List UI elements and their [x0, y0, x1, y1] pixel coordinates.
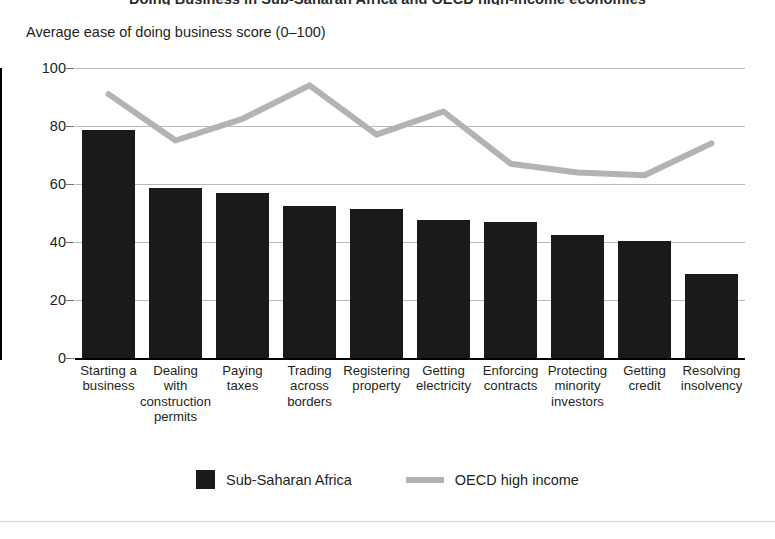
- footer-divider: [0, 521, 775, 522]
- legend-square-swatch-icon: [196, 470, 215, 489]
- y-tick-mark-40: [66, 242, 74, 243]
- legend-label-sub-saharan-africa: Sub-Saharan Africa: [226, 472, 352, 488]
- y-tick-mark-80: [66, 126, 74, 127]
- y-axis-caption: Average ease of doing business score (0–…: [26, 24, 326, 40]
- plot-area: [75, 68, 745, 358]
- chart-title: Doing Business in Sub-Saharan Africa and…: [0, 0, 775, 5]
- y-axis-line: [0, 68, 2, 360]
- y-tick-label-20: 20: [20, 292, 66, 308]
- legend-item-oecd-high-income[interactable]: OECD high income: [406, 472, 579, 488]
- y-tick-label-40: 40: [20, 234, 66, 250]
- y-tick-label-80: 80: [20, 118, 66, 134]
- y-tick-mark-100: [66, 68, 74, 69]
- legend-item-sub-saharan-africa[interactable]: Sub-Saharan Africa: [196, 470, 352, 489]
- x-axis-label-9: Resolvinginsolvency: [672, 363, 751, 394]
- legend-line-swatch-icon: [406, 477, 444, 483]
- y-tick-mark-0: [66, 358, 74, 359]
- y-tick-mark-60: [66, 184, 74, 185]
- line-series-oecd-high-income: [75, 68, 745, 358]
- y-tick-mark-20: [66, 300, 74, 301]
- chart-legend: Sub-Saharan Africa OECD high income: [0, 470, 775, 489]
- chart-figure: Doing Business in Sub-Saharan Africa and…: [0, 0, 775, 539]
- y-tick-label-60: 60: [20, 176, 66, 192]
- x-axis-category-labels: Starting abusinessDealingwithconstructio…: [75, 363, 745, 463]
- oecd-polyline: [109, 85, 712, 175]
- x-axis-baseline: [75, 358, 745, 360]
- legend-label-oecd-high-income: OECD high income: [455, 472, 579, 488]
- y-tick-label-0: 0: [20, 350, 66, 366]
- y-tick-label-100: 100: [20, 60, 66, 76]
